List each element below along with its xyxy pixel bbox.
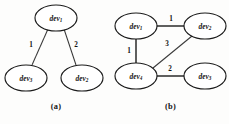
panel-a: 1 2 dev1 dev3 dev2 (a)	[0, 0, 112, 124]
caption-a: (a)	[0, 102, 112, 111]
edge-weight-b-2: 1	[127, 47, 131, 55]
edge-weight-b-1: 1	[169, 15, 173, 23]
edge-weight-a-1: 1	[29, 41, 33, 49]
edge-weight-b-3: 3	[165, 40, 169, 48]
edge-weight-a-2: 2	[74, 41, 78, 49]
graph-a: 1 2 dev1 dev3 dev2	[0, 0, 112, 100]
edge-b-3	[153, 36, 192, 68]
edge-weight-b-4: 2	[168, 65, 172, 73]
figure-device-graphs: 1 2 dev1 dev3 dev2 (a) 1 1 3 2 dev1 dev2	[0, 0, 229, 124]
graph-b: 1 1 3 2 dev1 dev2 dev4 dev3	[112, 0, 229, 100]
panel-b: 1 1 3 2 dev1 dev2 dev4 dev3 (b)	[112, 0, 229, 124]
edge-a-1	[32, 29, 48, 65]
caption-b: (b)	[112, 102, 229, 111]
